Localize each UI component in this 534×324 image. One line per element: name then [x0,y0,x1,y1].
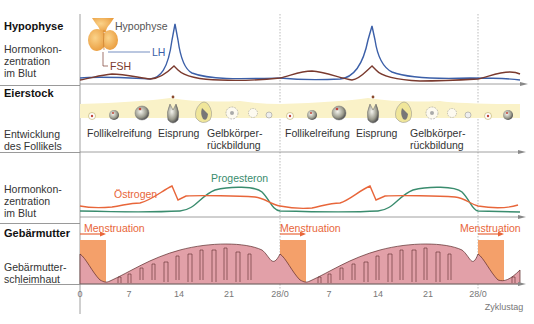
phase-eisprung-2: Eisprung [356,127,397,139]
phase-gelbkoerper-a-2: Gelbkörper- [410,127,465,139]
menstruation-label-3: Menstruation [460,222,521,234]
phase-follikelreifung: Follikelreifung [87,127,152,139]
phase-eisprung: Eisprung [158,127,199,139]
oestrogen-label: Östrogen [114,188,157,200]
tick-28b: 28/0 [469,289,487,299]
lh-label: LH [152,46,165,58]
fsh-label: FSH [110,60,131,72]
progesteron-label: Progesteron [211,172,268,184]
tick-0: 0 [77,289,82,299]
phase-gelbkoerper-a: Gelbkörper- [207,127,262,139]
phase-gelbkoerper-b-2: rückbildung [410,139,464,151]
tick-28: 28/0 [271,289,289,299]
gland-label: Hypophyse [115,20,168,32]
pituitary-gland-icon [88,18,118,51]
phase-gelbkoerper-b: rückbildung [207,139,261,151]
tick-21: 21 [224,289,234,299]
cycle-diagram [0,0,534,324]
tick-21b: 21 [423,289,433,299]
x-axis-label: Zyklustag [485,302,524,312]
menstruation-label-2: Menstruation [280,222,341,234]
menstruation-label-1: Menstruation [84,222,145,234]
tick-14b: 14 [373,289,383,299]
tick-14: 14 [174,289,184,299]
tick-7: 7 [126,289,131,299]
phase-follikelreifung-2: Follikelreifung [285,127,350,139]
tick-7b: 7 [326,289,331,299]
